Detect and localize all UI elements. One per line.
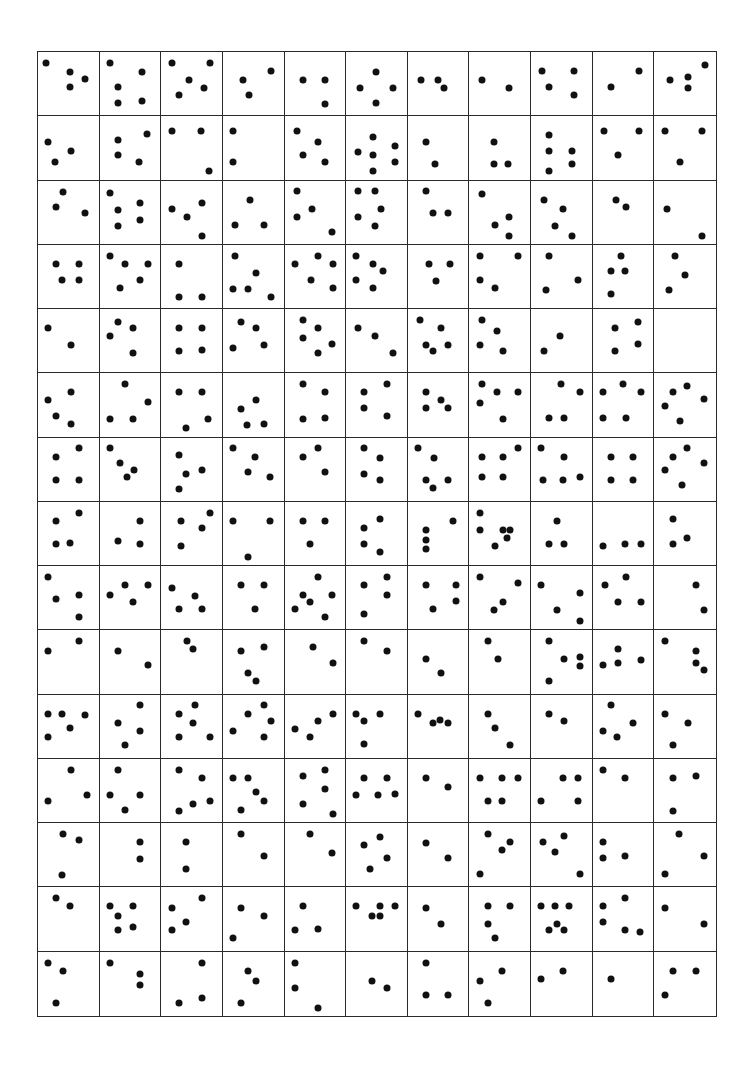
dot-icon [383,573,390,580]
dot-icon [663,206,670,213]
grid-cell [38,630,100,694]
dot-icon [669,389,676,396]
dot-icon [238,806,245,813]
dot-icon [669,807,676,814]
grid-cell [346,566,408,630]
dot-icon [600,854,607,861]
dot-icon [570,92,577,99]
dot-icon [322,517,329,524]
grid-cell [593,566,655,630]
dot-icon [661,403,668,410]
dot-icon [131,467,138,474]
dot-icon [435,77,442,84]
dot-icon [376,454,383,461]
dot-icon [129,923,136,930]
dot-icon [361,525,368,532]
grid-cell [161,373,223,437]
dot-icon [361,718,368,725]
dot-icon [245,92,252,99]
grid-cell [100,116,162,180]
dot-icon [553,607,560,614]
dot-icon [635,318,642,325]
dot-icon [415,710,422,717]
grid-cell [469,952,531,1016]
dot-icon [416,316,423,323]
dot-icon [168,904,175,911]
dot-icon [669,968,676,975]
dot-icon [445,210,452,217]
dot-icon [114,538,121,545]
dot-icon [106,591,113,598]
dot-icon [122,742,129,749]
dot-icon [540,476,547,483]
dot-icon [68,342,75,349]
dot-icon [361,774,368,781]
dot-icon [476,252,483,259]
dot-icon [191,592,198,599]
dot-icon [239,77,246,84]
dot-icon [299,801,306,808]
dot-icon [514,580,521,587]
dot-icon [314,252,321,259]
dot-icon [676,830,683,837]
dot-icon [260,582,267,589]
grid-cell [346,116,408,180]
dot-icon [185,77,192,84]
dot-icon [75,445,82,452]
grid-cell [531,630,593,694]
dot-icon [669,742,676,749]
dot-icon [692,582,699,589]
dot-icon [137,216,144,223]
dot-icon [491,935,498,942]
dot-icon [700,666,707,673]
dot-icon [383,412,390,419]
dot-icon [129,415,136,422]
dot-icon [361,470,368,477]
dot-icon [445,784,452,791]
dot-icon [260,734,267,741]
grid-cell [469,566,531,630]
dot-icon [59,710,66,717]
dot-icon [328,340,335,347]
dot-icon [197,127,204,134]
grid-cell [408,373,470,437]
dot-icon [353,903,360,910]
dot-icon [68,420,75,427]
dot-icon [423,774,430,781]
dot-icon [114,318,121,325]
dot-icon [45,798,52,805]
grid-cell [408,52,470,116]
dot-icon [561,541,568,548]
grid-cell [161,309,223,373]
grid-cell [593,823,655,887]
dot-icon [299,334,306,341]
dot-icon [168,206,175,213]
grid-cell [223,630,285,694]
grid-cell [346,759,408,823]
dot-icon [623,414,630,421]
dot-icon [260,221,267,228]
dot-icon [137,541,144,548]
dot-icon [361,638,368,645]
dot-icon [299,453,306,460]
grid-cell [285,502,347,566]
dot-icon [238,582,245,589]
dot-icon [53,453,60,460]
dot-icon [698,127,705,134]
dot-icon [53,260,60,267]
dot-icon [252,453,259,460]
dot-icon [322,389,329,396]
dot-icon [368,912,375,919]
dot-icon [621,853,628,860]
dot-icon [576,653,583,660]
grid-cell [654,181,716,245]
dot-icon [423,546,430,553]
dot-icon [438,669,445,676]
grid-cell [654,373,716,437]
dot-icon [75,837,82,844]
dot-icon [67,539,74,546]
grid-cell [100,823,162,887]
grid-cell [285,887,347,951]
grid-cell [654,952,716,1016]
dot-icon [368,977,375,984]
